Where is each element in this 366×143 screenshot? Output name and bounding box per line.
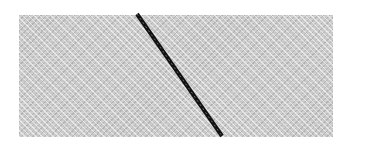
canvas xyxy=(0,0,366,143)
textured-gray-panel xyxy=(19,15,333,137)
